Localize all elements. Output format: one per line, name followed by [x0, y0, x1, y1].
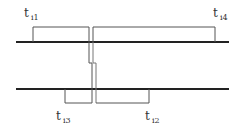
svg-text:t: t	[24, 6, 29, 20]
pulse-ti3	[65, 89, 92, 103]
svg-text:i4: i4	[220, 13, 228, 22]
svg-text:t: t	[145, 109, 150, 123]
label-ti4: t i4	[213, 6, 228, 22]
svg-text:i1: i1	[31, 13, 39, 22]
pulse-ti1	[33, 27, 89, 42]
pulse-ti2	[96, 89, 149, 103]
connector-right	[93, 42, 96, 103]
connector-left	[89, 42, 92, 103]
timing-diagram: t i1 t i4 t i3 t i2	[0, 0, 238, 124]
svg-text:i2: i2	[152, 116, 160, 124]
label-ti1: t i1	[24, 6, 39, 22]
label-ti2: t i2	[145, 109, 160, 124]
label-ti3: t i3	[56, 109, 71, 124]
svg-text:i3: i3	[63, 116, 71, 124]
pulse-ti4	[93, 27, 215, 42]
svg-text:t: t	[213, 6, 218, 20]
svg-text:t: t	[56, 109, 61, 123]
